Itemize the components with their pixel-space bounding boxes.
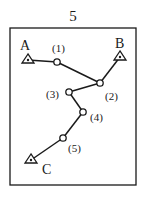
joint-label-3: (3) bbox=[46, 88, 59, 101]
joints bbox=[54, 59, 103, 141]
figure-number: 5 bbox=[69, 8, 77, 24]
triangle-support-icon bbox=[25, 154, 37, 163]
joint-3-icon bbox=[66, 89, 72, 95]
joint-5-icon bbox=[60, 135, 66, 141]
link-2-b bbox=[100, 57, 120, 83]
joint-4-icon bbox=[80, 109, 86, 115]
joint-1-icon bbox=[54, 59, 60, 65]
joint-label-5: (5) bbox=[68, 142, 81, 155]
joint-label-4: (4) bbox=[90, 111, 103, 124]
joint-label-2: (2) bbox=[105, 90, 118, 103]
triangle-support-icon bbox=[114, 51, 126, 60]
link-4-5 bbox=[63, 112, 83, 138]
joint-label-1: (1) bbox=[52, 42, 65, 55]
support-a: A bbox=[20, 38, 34, 63]
support-label-a: A bbox=[20, 38, 31, 53]
pin-icon bbox=[30, 159, 32, 161]
link-2-3 bbox=[69, 83, 100, 92]
link-5-c bbox=[31, 138, 63, 160]
mechanism-diagram: 5 A B C (1) (2) (3) (4) (5) bbox=[0, 0, 146, 199]
support-label-c: C bbox=[42, 162, 51, 177]
support-c: C bbox=[25, 154, 51, 177]
triangle-support-icon bbox=[22, 54, 34, 63]
link-1-2 bbox=[57, 62, 100, 83]
pin-icon bbox=[119, 56, 121, 58]
pin-icon bbox=[27, 59, 29, 61]
support-label-b: B bbox=[115, 36, 124, 51]
support-b: B bbox=[114, 36, 126, 60]
joint-2-icon bbox=[97, 80, 103, 86]
